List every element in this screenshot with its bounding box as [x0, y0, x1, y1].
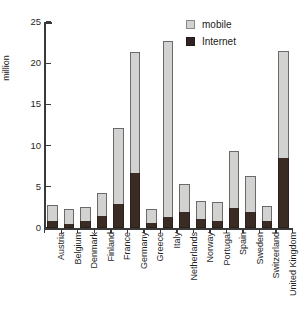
bar-united-kingdom: [278, 51, 289, 228]
bar-belgium: [64, 209, 75, 228]
x-label-finland: Finland: [106, 232, 116, 262]
bar-segment-internet: [212, 221, 223, 228]
x-label-sweden: Sweden: [255, 232, 265, 265]
bar-italy: [163, 41, 174, 228]
bar-segment-internet: [47, 221, 58, 228]
x-label-italy: Italy: [172, 232, 182, 249]
bar-chart: million 0510152025 AustriaBelgiumDenmark…: [0, 0, 300, 332]
bar-finland: [97, 193, 108, 228]
bar-segment-internet: [196, 219, 207, 228]
y-tick-label: 10: [1, 141, 41, 151]
bar-denmark: [80, 207, 91, 228]
legend-label-mobile: mobile: [202, 19, 231, 30]
y-axis-title: million: [1, 28, 11, 108]
y-tick-label: 20: [1, 58, 41, 68]
bar-france: [113, 128, 124, 228]
x-label-portugal: Portugal: [222, 232, 232, 266]
x-label-united-kingdom: United Kingdom: [288, 232, 298, 296]
bar-switzerland: [262, 206, 273, 228]
plot-area: 0510152025: [44, 22, 292, 228]
bar-segment-internet: [179, 212, 190, 228]
y-tick-label: 25: [1, 17, 41, 27]
bar-segment-mobile: [163, 41, 174, 228]
bar-norway: [196, 201, 207, 228]
x-label-spain: Spain: [238, 232, 248, 255]
bar-germany: [130, 52, 141, 228]
bar-segment-internet: [64, 224, 75, 228]
y-axis-line: [44, 22, 46, 228]
y-tick-mark: [46, 21, 51, 22]
x-label-austria: Austria: [56, 232, 66, 260]
bar-segment-internet: [229, 208, 240, 228]
x-axis-labels: AustriaBelgiumDenmarkFinlandFranceGerman…: [44, 232, 292, 330]
bar-segment-internet: [80, 221, 91, 228]
bar-segment-internet: [113, 204, 124, 228]
legend-swatch-mobile-icon: [186, 20, 195, 29]
y-tick-mark: [46, 104, 51, 105]
bar-portugal: [212, 202, 223, 228]
bar-segment-internet: [278, 158, 289, 228]
x-axis-line: [44, 228, 292, 230]
x-label-netherlands: Netherlands: [189, 232, 199, 281]
legend-item-mobile: mobile: [186, 16, 236, 33]
legend-label-internet: Internet: [202, 36, 236, 47]
bar-segment-internet: [146, 223, 157, 228]
bar-netherlands: [179, 184, 190, 228]
y-tick-mark: [46, 186, 51, 187]
y-tick-mark: [46, 63, 51, 64]
bar-sweden: [245, 176, 256, 228]
y-tick-label: 15: [1, 99, 41, 109]
x-label-greece: Greece: [155, 232, 165, 262]
y-tick-mark: [46, 145, 51, 146]
bar-segment-internet: [262, 221, 273, 228]
bar-segment-internet: [163, 217, 174, 228]
y-tick-label: 5: [1, 182, 41, 192]
legend-swatch-internet-icon: [186, 37, 195, 46]
x-label-france: France: [122, 232, 132, 260]
y-tick-label: 0: [1, 223, 41, 233]
bar-segment-internet: [245, 212, 256, 228]
bar-greece: [146, 209, 157, 228]
bar-spain: [229, 151, 240, 228]
x-label-switzerland: Switzerland: [271, 232, 281, 279]
bar-segment-internet: [130, 173, 141, 228]
bar-austria: [47, 205, 58, 228]
legend-item-internet: Internet: [186, 33, 236, 50]
x-label-denmark: Denmark: [89, 232, 99, 269]
chart-legend: mobile Internet: [186, 16, 236, 50]
bar-segment-internet: [97, 216, 108, 228]
x-label-norway: Norway: [205, 232, 215, 263]
x-label-belgium: Belgium: [73, 232, 83, 265]
x-label-germany: Germany: [139, 232, 149, 269]
